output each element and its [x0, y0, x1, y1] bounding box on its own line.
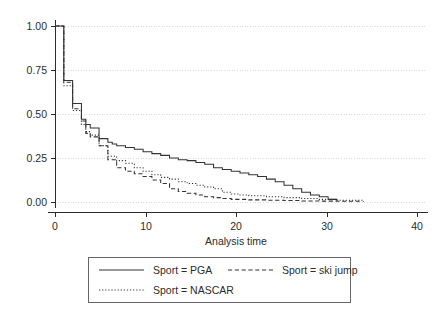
y-tick-label-4: 0.25 [27, 152, 48, 164]
series-line-pga [55, 26, 337, 200]
x-tick-label-4: 30 [321, 220, 333, 232]
kaplan-meier-chart: 1.00 0.75 0.50 0.25 0.00 0 10 20 30 40 A… [0, 0, 438, 309]
y-tick-label-2: 0.75 [27, 64, 48, 76]
gridlines [55, 26, 425, 202]
x-tick-label-5: 40 [411, 220, 423, 232]
y-tick-label-1: 1.00 [27, 20, 48, 32]
x-tick-label-1: 0 [52, 220, 58, 232]
x-axis-title: Analysis time [205, 235, 267, 247]
legend-label-ski-jump: Sport = ski jump [282, 264, 358, 276]
y-axis: 1.00 0.75 0.50 0.25 0.00 [27, 20, 56, 208]
y-tick-label-3: 0.50 [27, 108, 48, 120]
survival-curve-figure: 1.00 0.75 0.50 0.25 0.00 0 10 20 30 40 A… [0, 0, 438, 309]
legend-label-pga: Sport = PGA [153, 264, 212, 276]
y-tick-label-5: 0.00 [27, 196, 48, 208]
legend: Sport = PGA Sport = ski jump Sport = NAS… [89, 258, 358, 303]
x-tick-label-3: 20 [230, 220, 242, 232]
x-axis: 0 10 20 30 40 Analysis time [48, 212, 428, 247]
legend-label-nascar: Sport = NASCAR [153, 284, 234, 296]
x-tick-label-2: 10 [140, 220, 152, 232]
